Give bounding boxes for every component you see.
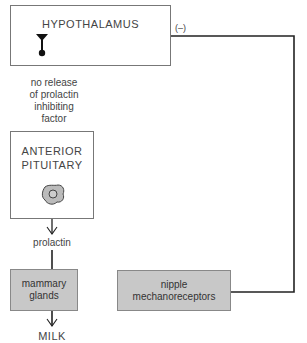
inhibition-note: no release of prolactin inhibiting facto… [10, 77, 98, 125]
neuron-terminal-icon [35, 33, 49, 57]
anterior-pituitary-box: ANTERIOR PITUITARY [10, 131, 94, 219]
hypothalamus-box: HYPOTHALAMUS [10, 5, 171, 66]
hypothalamus-label: HYPOTHALAMUS [11, 18, 170, 30]
negative-feedback-label: (–) [175, 22, 186, 34]
mammary-glands-box: mammary glands [10, 269, 78, 311]
anterior-pituitary-label: ANTERIOR PITUITARY [11, 144, 93, 172]
prolactin-label: prolactin [12, 237, 92, 249]
pituitary-cell-icon [40, 183, 66, 207]
milk-label: MILK [22, 330, 82, 342]
nipple-mechanoreceptors-box: nipple mechanoreceptors [117, 270, 231, 311]
